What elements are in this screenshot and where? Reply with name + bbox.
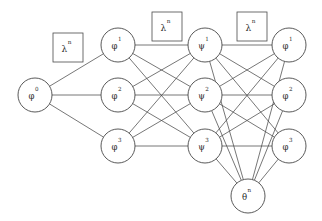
node-circle-n-phi1-b bbox=[272, 28, 306, 62]
edges-group bbox=[49, 45, 284, 183]
network-canvas: φ0φ1φ2φ3ψ1ψ2ψ3φ1φ2φ3θn λnλnλn bbox=[0, 0, 322, 221]
param-box-box-lambda-1[interactable]: λn bbox=[53, 33, 83, 62]
node-n-phi1-b[interactable]: φ1 bbox=[272, 28, 306, 62]
node-circle-n-phi2-b bbox=[272, 78, 306, 112]
node-n-phi1-a[interactable]: φ1 bbox=[101, 28, 135, 62]
param-box-box-lambda-3[interactable]: λn bbox=[237, 12, 267, 41]
param-boxes-group: λnλnλn bbox=[53, 12, 267, 62]
edge-n-phi0-to-n-phi3-a bbox=[49, 104, 103, 137]
node-n-phi3-a[interactable]: φ3 bbox=[101, 129, 135, 163]
node-n-phi2-b[interactable]: φ2 bbox=[272, 78, 306, 112]
node-n-phi3-b[interactable]: φ3 bbox=[272, 129, 306, 163]
node-n-psi1[interactable]: ψ1 bbox=[188, 28, 222, 62]
node-n-theta[interactable]: θn bbox=[231, 179, 265, 213]
param-box-box-lambda-2[interactable]: λn bbox=[152, 12, 182, 41]
node-n-psi3[interactable]: ψ3 bbox=[188, 129, 222, 163]
neural-network-diagram: φ0φ1φ2φ3ψ1ψ2ψ3φ1φ2φ3θn λnλnλn bbox=[0, 0, 322, 221]
param-box-rect-box-lambda-3 bbox=[237, 12, 267, 41]
node-circle-n-phi0 bbox=[18, 78, 52, 112]
node-circle-n-psi1 bbox=[188, 28, 222, 62]
node-n-phi0[interactable]: φ0 bbox=[18, 78, 52, 112]
node-circle-n-psi2 bbox=[188, 78, 222, 112]
param-box-rect-box-lambda-1 bbox=[53, 33, 83, 62]
node-circle-n-phi3-a bbox=[101, 129, 135, 163]
node-circle-n-theta bbox=[231, 179, 265, 213]
node-n-phi2-a[interactable]: φ2 bbox=[101, 78, 135, 112]
param-box-rect-box-lambda-2 bbox=[152, 12, 182, 41]
node-circle-n-psi3 bbox=[188, 129, 222, 163]
edge-n-psi1-to-n-theta bbox=[210, 61, 244, 179]
node-circle-n-phi1-a bbox=[101, 28, 135, 62]
edge-n-phi1-b-to-n-theta bbox=[252, 61, 284, 179]
node-circle-n-phi2-a bbox=[101, 78, 135, 112]
node-n-psi2[interactable]: ψ2 bbox=[188, 78, 222, 112]
node-circle-n-phi3-b bbox=[272, 129, 306, 163]
